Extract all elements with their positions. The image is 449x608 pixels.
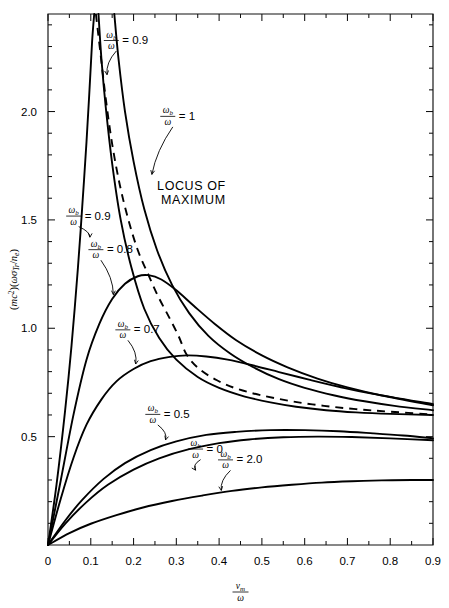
fraction-numerator: ωb [91, 239, 102, 251]
y-tick-label: 0.5 [21, 431, 37, 443]
locus-label-line1: LOCUS OF [157, 179, 226, 193]
curve-label: ωbω= 0.7 [115, 319, 159, 341]
leader-line [152, 127, 173, 174]
data-curve [48, 480, 433, 545]
leader-arrowhead [165, 436, 169, 440]
chart-svg: 00.10.20.30.40.50.60.70.80.9 0.51.01.52.… [0, 0, 449, 608]
data-curve [48, 355, 433, 545]
fraction-denominator: ω [164, 117, 171, 127]
curve-label-value: = 0.9 [122, 34, 148, 46]
curve-label: ωbω= 1 [160, 105, 195, 127]
fraction-denominator: ω [120, 330, 127, 340]
fraction-numerator: ωb [163, 105, 174, 117]
x-tick-label: 0 [45, 555, 51, 567]
locus-of-maximum-label: LOCUS OFMAXIMUM [157, 179, 226, 207]
leader-arrowhead [192, 466, 196, 470]
fraction-numerator: ωb [69, 205, 80, 217]
x-axis-tick-labels: 00.10.20.30.40.50.60.70.80.9 [45, 555, 441, 567]
x-tick-label: 0.9 [425, 555, 441, 567]
curve-label-value: = 0.9 [85, 210, 111, 222]
curve-label: ωbω= 0.5 [145, 403, 189, 425]
fraction-denominator: ω [108, 41, 115, 51]
fraction-denominator: ω [192, 450, 199, 460]
x-tick-label: 0.4 [211, 555, 228, 567]
data-curve [48, 430, 433, 545]
x-axis-label: νmω [233, 581, 249, 603]
x-tick-label: 0.1 [83, 555, 99, 567]
curve-labels: ωbω= 0.9ωbω= 0.9ωbω= 1ωbω= 0.8ωbω= 0.7ωb… [66, 30, 262, 471]
curve-label: ωbω= 0.8 [88, 239, 132, 260]
y-axis-label: (mc2)(ωσTr/ne) [7, 249, 21, 310]
x-label-numerator: νm [236, 581, 245, 593]
x-tick-label: 0.8 [382, 555, 398, 567]
fraction-denominator: ω [222, 460, 229, 470]
curve-label-value: = 0.7 [134, 323, 160, 335]
y-tick-label: 1.0 [21, 322, 37, 334]
fraction-denominator: ω [93, 250, 100, 260]
fraction-denominator: ω [70, 217, 77, 227]
curve-label-value: = 1 [179, 110, 195, 122]
fraction-numerator: ωb [220, 449, 231, 461]
y-tick-label: 2.0 [21, 106, 37, 118]
curve-label-value: = 0.8 [107, 243, 133, 255]
y-tick-label: 1.5 [21, 214, 37, 226]
data-curve [48, 275, 433, 545]
y-axis-tick-labels: 0.51.01.52.0 [21, 106, 37, 443]
y-axis-label-text: (mc2)(ωσTr/ne) [7, 249, 21, 310]
leader-line [158, 425, 166, 440]
locus-label-line2: MAXIMUM [161, 193, 226, 207]
fraction-denominator: ω [149, 415, 156, 425]
leader-arrowhead [88, 233, 92, 237]
figure-container: 00.10.20.30.40.50.60.70.80.9 0.51.01.52.… [0, 0, 449, 608]
curve-label-value: = 2.0 [237, 453, 263, 465]
curve-label: ωbω= 0.9 [66, 205, 110, 227]
x-tick-label: 0.6 [297, 555, 313, 567]
x-tick-label: 0.3 [168, 555, 184, 567]
curve-label-value: = 0.5 [164, 408, 190, 420]
fraction-numerator: ωb [118, 319, 129, 331]
curve-label: ωbω= 2.0 [218, 449, 262, 471]
data-curve [114, 14, 433, 410]
fraction-numerator: ωb [148, 403, 159, 415]
x-tick-label: 0.5 [254, 555, 270, 567]
x-tick-label: 0.7 [339, 555, 355, 567]
data-curve [98, 14, 433, 415]
curve-label: ωbω= 0 [188, 438, 223, 460]
leader-line [101, 260, 114, 295]
x-label-denominator: ω [237, 593, 244, 603]
curve-label: ωbω= 0.9 [104, 30, 148, 52]
x-tick-label: 0.2 [126, 555, 142, 567]
